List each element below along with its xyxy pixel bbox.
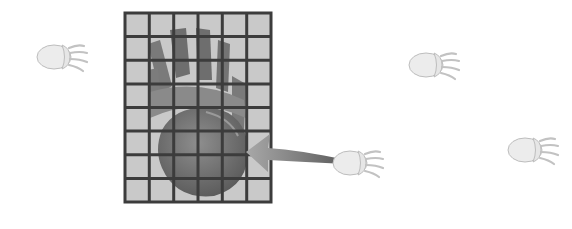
paw-print-far-right-icon: [508, 138, 558, 164]
paw-grid-diagram: [0, 0, 572, 229]
paw-print-arrow-source-icon: [333, 151, 383, 177]
paw-print-upper-right-icon: [409, 53, 459, 79]
paw-print-left-icon: [37, 45, 87, 71]
